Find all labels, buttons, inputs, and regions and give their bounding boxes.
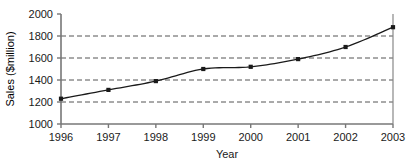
- chart-canvas: 200018001600140012001000 199619971998199…: [0, 0, 416, 166]
- data-point-1998: [154, 79, 158, 83]
- y-tick-label-2000: 2000: [29, 8, 53, 20]
- y-tick-label-1200: 1200: [29, 96, 53, 108]
- x-tick-label-2001: 2001: [286, 131, 310, 143]
- data-point-1999: [201, 67, 205, 71]
- data-point-2000: [249, 65, 253, 69]
- data-point-2001: [296, 57, 300, 61]
- x-axis-title: Year: [216, 148, 239, 160]
- x-tick-label-2000: 2000: [238, 131, 262, 143]
- x-tick-label-2003: 2003: [381, 131, 405, 143]
- y-tick-label-1800: 1800: [29, 30, 53, 42]
- data-point-1997: [106, 88, 110, 92]
- y-tick-label-1600: 1600: [29, 52, 53, 64]
- data-point-1996: [59, 97, 63, 101]
- y-tick-label-1000: 1000: [29, 118, 53, 130]
- x-tick-label-1997: 1997: [96, 131, 120, 143]
- data-point-2003: [391, 25, 395, 29]
- x-tick-label-1996: 1996: [49, 131, 73, 143]
- y-tick-label-1400: 1400: [29, 74, 53, 86]
- y-axis-title: Sales ($million): [4, 31, 16, 106]
- x-tick-label-2002: 2002: [333, 131, 357, 143]
- x-tick-label-1999: 1999: [191, 131, 215, 143]
- data-point-2002: [343, 45, 347, 49]
- line-chart: 200018001600140012001000 199619971998199…: [0, 0, 416, 166]
- x-tick-label-1998: 1998: [144, 131, 168, 143]
